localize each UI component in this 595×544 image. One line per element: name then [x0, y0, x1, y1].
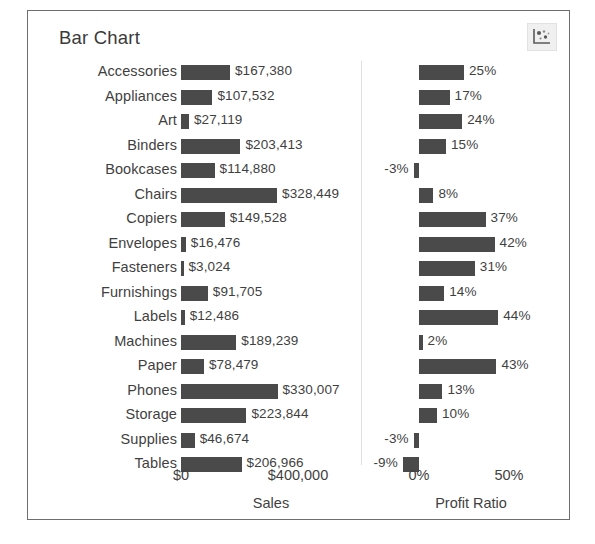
sales-value-label: $203,413	[245, 137, 302, 152]
category-label: Machines	[28, 333, 177, 349]
sales-bar[interactable]	[181, 433, 195, 448]
bar-row: Fasteners$3,02431%	[28, 257, 569, 282]
profit-axis-title: Profit Ratio	[435, 495, 507, 511]
profit-bar[interactable]	[419, 261, 475, 276]
sales-bar[interactable]	[181, 359, 204, 374]
chart-frame: Bar Chart Accessories$167,38025%Applianc…	[27, 10, 570, 520]
page-title: Bar Chart	[59, 27, 140, 49]
profit-bar-track: 37%	[368, 208, 568, 233]
sales-tick-1: $400,000	[268, 467, 328, 483]
sales-axis-title: Sales	[253, 495, 289, 511]
sales-bar[interactable]	[181, 114, 189, 129]
profit-value-label: 15%	[451, 137, 478, 152]
sales-bar[interactable]	[181, 335, 236, 350]
scatter-plot-icon[interactable]	[527, 23, 557, 51]
profit-value-label: 37%	[491, 210, 518, 225]
profit-bar[interactable]	[419, 139, 446, 154]
sales-bar[interactable]	[181, 408, 246, 423]
profit-value-label: 14%	[449, 284, 476, 299]
profit-value-label: 44%	[503, 308, 530, 323]
profit-bar[interactable]	[419, 310, 498, 325]
profit-bar-track: 31%	[368, 257, 568, 282]
plot-area: Accessories$167,38025%Appliances$107,532…	[28, 55, 569, 475]
category-label: Chairs	[28, 186, 177, 202]
sales-bar[interactable]	[181, 286, 208, 301]
profit-bar[interactable]	[414, 433, 419, 448]
category-label: Copiers	[28, 210, 177, 226]
sales-value-label: $46,674	[200, 431, 250, 446]
profit-value-label: 8%	[438, 186, 458, 201]
category-label: Binders	[28, 137, 177, 153]
sales-bar-track: $12,486	[181, 306, 361, 331]
sales-bar[interactable]	[181, 188, 277, 203]
sales-tick-0: $0	[173, 467, 189, 483]
profit-bar-track: -3%	[368, 429, 568, 454]
profit-bar[interactable]	[419, 384, 442, 399]
profit-bar[interactable]	[419, 114, 462, 129]
bar-row: Chairs$328,4498%	[28, 184, 569, 209]
sales-bar-track: $91,705	[181, 282, 361, 307]
profit-bar[interactable]	[419, 237, 495, 252]
bar-row: Bookcases$114,880-3%	[28, 159, 569, 184]
category-label: Storage	[28, 406, 177, 422]
profit-bar-track: 24%	[368, 110, 568, 135]
category-label: Art	[28, 112, 177, 128]
sales-bar[interactable]	[181, 90, 212, 105]
sales-bar-track: $223,844	[181, 404, 361, 429]
profit-value-label: 31%	[480, 259, 507, 274]
category-label: Labels	[28, 308, 177, 324]
sales-bar[interactable]	[181, 212, 225, 227]
profit-bar-track: 43%	[368, 355, 568, 380]
sales-bar[interactable]	[181, 65, 230, 80]
sales-bar[interactable]	[181, 384, 278, 399]
bar-row: Furnishings$91,70514%	[28, 282, 569, 307]
bar-row: Supplies$46,674-3%	[28, 429, 569, 454]
sales-bar-track: $189,239	[181, 331, 361, 356]
profit-bar-track: 14%	[368, 282, 568, 307]
sales-value-label: $114,880	[220, 161, 276, 176]
sales-bar[interactable]	[181, 237, 186, 252]
category-label: Furnishings	[28, 284, 177, 300]
profit-value-label: -3%	[384, 161, 408, 176]
bar-row: Binders$203,41315%	[28, 135, 569, 160]
profit-bar[interactable]	[419, 286, 444, 301]
bar-row: Labels$12,48644%	[28, 306, 569, 331]
profit-value-label: 13%	[447, 382, 474, 397]
sales-bar[interactable]	[181, 163, 215, 178]
profit-value-label: 42%	[500, 235, 527, 250]
bar-row: Machines$189,2392%	[28, 331, 569, 356]
sales-bar-track: $328,449	[181, 184, 361, 209]
sales-value-label: $91,705	[213, 284, 263, 299]
sales-bar[interactable]	[181, 261, 184, 276]
profit-bar-track: 42%	[368, 233, 568, 258]
sales-bar-track: $3,024	[181, 257, 361, 282]
axis-area: $0 $400,000 Sales 0% 50% Profit Ratio	[28, 467, 569, 521]
sales-bar[interactable]	[181, 139, 240, 154]
profit-bar[interactable]	[419, 335, 423, 350]
profit-tick-1: 50%	[494, 467, 523, 483]
category-label: Fasteners	[28, 259, 177, 275]
profit-bar-track: 13%	[368, 380, 568, 405]
sales-bar-track: $203,413	[181, 135, 361, 160]
profit-bar-track: 25%	[368, 61, 568, 86]
profit-bar[interactable]	[419, 359, 496, 374]
sales-value-label: $328,449	[282, 186, 339, 201]
profit-bar[interactable]	[419, 90, 450, 105]
sales-value-label: $12,486	[190, 308, 240, 323]
sales-bar[interactable]	[181, 310, 185, 325]
profit-value-label: 17%	[455, 88, 482, 103]
sales-bar-track: $16,476	[181, 233, 361, 258]
profit-bar[interactable]	[419, 212, 486, 227]
sales-value-label: $78,479	[209, 357, 259, 372]
profit-bar[interactable]	[419, 65, 464, 80]
profit-bar-track: 8%	[368, 184, 568, 209]
profit-bar[interactable]	[419, 408, 437, 423]
sales-bar-track: $149,528	[181, 208, 361, 233]
sales-bar-track: $114,880	[181, 159, 361, 184]
profit-bar[interactable]	[414, 163, 419, 178]
profit-bar-track: 44%	[368, 306, 568, 331]
profit-tick-0: 0%	[409, 467, 430, 483]
profit-bar[interactable]	[419, 188, 433, 203]
sales-value-label: $189,239	[241, 333, 298, 348]
sales-bar-track: $27,119	[181, 110, 361, 135]
